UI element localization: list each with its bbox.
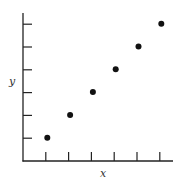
data-point <box>136 44 142 50</box>
data-point <box>158 21 164 27</box>
data-point <box>67 112 73 118</box>
data-point <box>44 135 50 141</box>
scatter-chart: y x <box>0 0 183 186</box>
x-axis-label: x <box>100 167 107 180</box>
data-point <box>90 89 96 95</box>
y-axis-label: y <box>8 75 16 88</box>
data-points <box>44 21 164 141</box>
data-point <box>113 66 119 72</box>
